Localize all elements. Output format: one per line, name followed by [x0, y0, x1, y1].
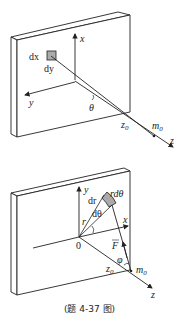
top-plate: [11, 12, 130, 137]
label-m0: m0: [136, 264, 147, 277]
label-origin: 0: [76, 240, 81, 251]
label-phi: φ: [117, 254, 123, 265]
label-m0: m0: [152, 120, 163, 133]
mass-point-m0: [130, 270, 133, 273]
top-figure: dx dy x y θ z0 m0 z: [11, 12, 174, 147]
diagram-canvas: dx dy x y θ z0 m0 z y: [0, 0, 179, 322]
bottom-figure: y dr rdθ r dθ x 0 F φ z0 m0 z: [11, 168, 155, 300]
label-y: y: [28, 97, 34, 108]
label-z: z: [169, 135, 174, 146]
label-theta: θ: [89, 102, 94, 113]
label-dr: dr: [88, 195, 97, 206]
label-dy: dy: [44, 63, 54, 74]
label-y: y: [83, 184, 89, 195]
mass-point-m0: [153, 135, 156, 138]
figure-caption: (题 4-37 图): [0, 302, 179, 315]
label-dtheta: dθ: [92, 208, 102, 219]
label-z: z: [150, 289, 155, 300]
label-dx: dx: [29, 51, 39, 62]
label-F: F: [111, 240, 119, 251]
label-r: r: [82, 216, 86, 227]
label-z0: z0: [120, 119, 129, 132]
label-x: x: [79, 33, 85, 44]
label-rdtheta: rdθ: [110, 188, 124, 199]
label-x: x: [122, 214, 128, 225]
